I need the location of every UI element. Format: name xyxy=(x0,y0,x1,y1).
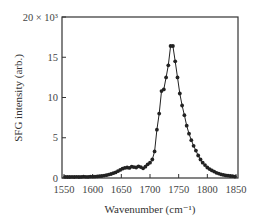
data-point xyxy=(173,59,177,63)
data-point xyxy=(185,124,189,128)
x-axis-label: Wavenumber (cm⁻¹) xyxy=(105,203,196,216)
y-tick-label: 20 × 10³ xyxy=(23,12,58,23)
y-tick-label: 15 xyxy=(48,52,59,63)
x-tick-label: 1600 xyxy=(82,184,103,195)
data-point xyxy=(196,154,200,158)
x-tick-label: 1850 xyxy=(226,184,247,195)
data-point xyxy=(155,128,159,132)
plot-frame xyxy=(62,17,238,178)
data-point xyxy=(162,88,166,92)
y-tick-label: 10 xyxy=(48,92,59,103)
series-line xyxy=(65,46,235,177)
data-point xyxy=(164,76,168,80)
data-point xyxy=(192,144,196,148)
x-tick-label: 1750 xyxy=(168,184,189,195)
data-point xyxy=(150,158,154,162)
y-tick-label: 5 xyxy=(53,132,58,143)
data-point xyxy=(148,161,152,165)
x-tick-label: 1550 xyxy=(54,184,75,195)
data-point xyxy=(199,158,203,162)
x-tick-label: 1800 xyxy=(197,184,218,195)
y-axis-label: SFG intensity (arb.) xyxy=(12,54,25,142)
data-point xyxy=(166,63,170,67)
data-point xyxy=(187,132,191,136)
data-point xyxy=(194,149,198,153)
data-point xyxy=(180,104,184,108)
data-point xyxy=(183,113,187,117)
data-point xyxy=(176,76,180,80)
data-point xyxy=(178,92,182,96)
y-tick-label: 0 xyxy=(53,173,58,184)
series-markers xyxy=(63,44,237,179)
y-axis-ticks: 05101520 × 10³ xyxy=(23,12,66,184)
data-point xyxy=(189,138,193,142)
data-point xyxy=(233,175,237,179)
x-tick-label: 1700 xyxy=(140,184,161,195)
data-point xyxy=(157,112,161,116)
x-tick-label: 1650 xyxy=(111,184,132,195)
sfg-spectrum-chart: 05101520 × 10³ 1550160016501700175018001… xyxy=(0,0,260,224)
data-point xyxy=(153,150,157,154)
data-point xyxy=(171,44,175,48)
